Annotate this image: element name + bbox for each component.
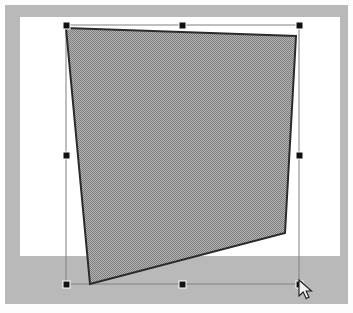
canvas-page[interactable] [20, 17, 340, 256]
mouse-arrow-cursor [298, 279, 314, 301]
screenshot-root [0, 0, 353, 313]
desk-area [5, 256, 348, 304]
